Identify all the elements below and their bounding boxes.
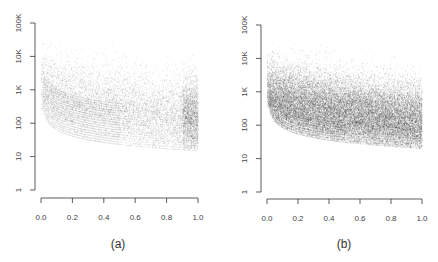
x-tick-label: 0.0	[35, 213, 47, 222]
point-cloud	[41, 41, 199, 150]
point-cloud	[267, 43, 423, 149]
x-tick-label: 0.8	[385, 214, 397, 223]
y-tick-label: 100K	[14, 13, 23, 32]
y-axis: 1101001K10K100K	[14, 13, 35, 192]
y-tick-label: 100	[14, 116, 23, 130]
y-tick-label: 10K	[240, 51, 249, 66]
y-tick-label: 1K	[14, 84, 23, 94]
x-tick-label: 0.2	[67, 213, 79, 222]
x-tick-label: 0.6	[354, 214, 366, 223]
x-tick-label: 0.0	[261, 214, 273, 223]
y-axis: 1101001K10K100K	[240, 15, 261, 194]
y-tick-label: 10	[240, 154, 249, 163]
x-tick-label: 0.8	[161, 213, 173, 222]
scatter-points	[41, 41, 199, 150]
y-tick-label: 1	[14, 187, 23, 192]
panel-caption: (a)	[98, 237, 138, 251]
y-tick-label: 100	[240, 118, 249, 132]
y-tick-label: 10K	[14, 49, 23, 64]
x-tick-label: 1.0	[416, 214, 428, 223]
scatter-panel-a: 1101001K10K100K 0.00.20.40.60.81.0 (a)	[0, 0, 219, 262]
y-tick-label: 1	[240, 189, 249, 194]
panel-caption: (b)	[324, 237, 364, 251]
x-tick-label: 0.4	[98, 213, 110, 222]
scatter-points	[267, 43, 423, 149]
x-tick-label: 1.0	[192, 213, 204, 222]
x-tick-label: 0.2	[292, 214, 304, 223]
x-tick-label: 0.6	[130, 213, 142, 222]
scatter-plot-b: 1101001K10K100K 0.00.20.40.60.81.0	[219, 0, 438, 262]
x-axis: 0.00.20.40.60.81.0	[261, 199, 428, 223]
scatter-panel-b: 1101001K10K100K 0.00.20.40.60.81.0 (b)	[219, 0, 438, 262]
y-tick-label: 1K	[240, 86, 249, 96]
y-tick-label: 10	[14, 152, 23, 161]
x-tick-label: 0.4	[323, 214, 335, 223]
y-tick-label: 100K	[240, 15, 249, 34]
scatter-plot-a: 1101001K10K100K 0.00.20.40.60.81.0	[0, 0, 219, 262]
x-axis: 0.00.20.40.60.81.0	[35, 198, 204, 222]
